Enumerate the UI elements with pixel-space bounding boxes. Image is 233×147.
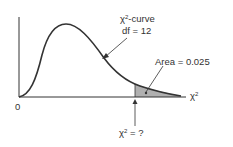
critical-arrow-head-icon	[133, 99, 138, 104]
area-pointer-dot-icon	[145, 92, 147, 94]
area-label: Area = 0.025	[155, 56, 210, 67]
origin-label: 0	[15, 101, 20, 112]
chi-square-figure: χ2-curve df = 12 Area = 0.025 χ2 0 χ2 = …	[0, 0, 233, 147]
x-axis-label: χ2	[190, 90, 198, 101]
chart-canvas	[0, 0, 233, 147]
area-pointer-line	[146, 66, 163, 92]
curve-pointer-line	[105, 38, 127, 57]
critical-value-label: χ2 = ?	[119, 127, 143, 138]
curve-label: χ2-curve	[120, 13, 155, 24]
df-label: df = 12	[122, 25, 151, 36]
